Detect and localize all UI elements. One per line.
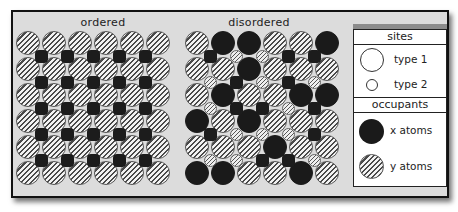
type1-label: type 1 — [394, 53, 427, 65]
x-atom-type2-site — [35, 154, 48, 167]
x-atom-type2-site — [87, 154, 100, 167]
y-atom-type2-site — [230, 50, 243, 63]
type2-site-icon — [366, 79, 378, 91]
x-atom-type2-site — [282, 50, 295, 63]
y-atom-type2-site — [256, 50, 269, 63]
y-atom-type2-site — [204, 76, 217, 89]
x-atom-type2-site — [308, 102, 321, 115]
legend-y-row: y atoms — [354, 150, 446, 184]
y-atoms-label: y atoms — [390, 160, 432, 172]
disordered-title: disordered — [209, 16, 309, 29]
x-atom-type2-site — [230, 102, 243, 115]
x-atom-type2-site — [61, 50, 74, 63]
y-atom-type2-site — [308, 76, 321, 89]
x-atom-icon — [359, 119, 384, 144]
y-atom-type2-site — [282, 102, 295, 115]
x-atom-type2-site — [113, 50, 126, 63]
x-atom-type2-site — [61, 102, 74, 115]
x-atom-type2-site — [87, 128, 100, 141]
x-atom-type2-site — [35, 102, 48, 115]
x-atom-type2-site — [282, 154, 295, 167]
x-atom-type2-site — [204, 50, 217, 63]
x-atom-type2-site — [35, 50, 48, 63]
x-atom-type2-site — [139, 50, 152, 63]
x-atom-type2-site — [139, 102, 152, 115]
x-atom-type2-site — [35, 76, 48, 89]
y-atom-type2-site — [230, 128, 243, 141]
type1-site-icon — [360, 48, 384, 72]
ordered-title: ordered — [53, 16, 153, 29]
x-atom-type2-site — [308, 128, 321, 141]
x-atom-type2-site — [87, 102, 100, 115]
y-atom-type2-site — [204, 154, 217, 167]
x-atom-type2-site — [256, 102, 269, 115]
x-atom-type2-site — [139, 76, 152, 89]
x-atom-type2-site — [113, 128, 126, 141]
legend-x-row: x atoms — [354, 114, 446, 150]
legend-occupants-header: occupants — [354, 98, 446, 113]
legend-sites-header: sites — [354, 30, 446, 45]
x-atoms-label: x atoms — [390, 124, 432, 136]
x-atom-type2-site — [61, 128, 74, 141]
y-atom-type2-site — [230, 154, 243, 167]
x-atom-type2-site — [256, 154, 269, 167]
y-atom-type2-site — [204, 102, 217, 115]
x-atom-type2-site — [35, 128, 48, 141]
x-atom-type2-site — [230, 76, 243, 89]
y-atom-type2-site — [308, 154, 321, 167]
x-atom-type2-site — [204, 128, 217, 141]
diagram-frame: ordered disordered sites type 1 type 2 o… — [11, 10, 449, 198]
y-atom-icon — [359, 154, 384, 179]
y-atom-type2-site — [256, 128, 269, 141]
x-atom-type2-site — [87, 76, 100, 89]
legend-type1-row: type 1 — [354, 45, 446, 75]
x-atom-type2-site — [113, 76, 126, 89]
x-atom-type2-site — [139, 128, 152, 141]
legend-type2-row: type 2 — [354, 75, 446, 97]
x-atom-type2-site — [113, 102, 126, 115]
legend: sites type 1 type 2 occupants x atoms y … — [353, 29, 447, 187]
y-atom-type2-site — [282, 128, 295, 141]
type2-label: type 2 — [394, 78, 427, 90]
x-atom-type2-site — [282, 76, 295, 89]
x-atom-type2-site — [308, 50, 321, 63]
x-atom-type2-site — [139, 154, 152, 167]
x-atom-type2-site — [113, 154, 126, 167]
x-atom-type2-site — [61, 154, 74, 167]
y-atom-type2-site — [256, 76, 269, 89]
x-atom-type2-site — [61, 76, 74, 89]
x-atom-type2-site — [87, 50, 100, 63]
